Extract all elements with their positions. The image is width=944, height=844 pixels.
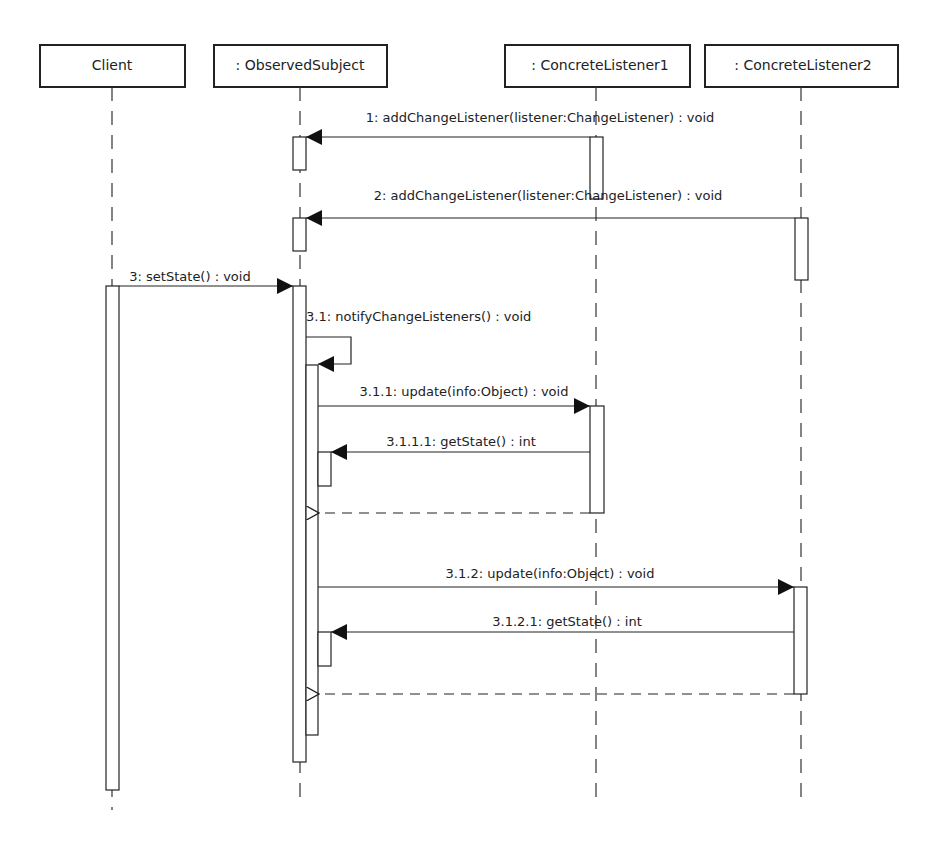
activation-subject-2 bbox=[293, 218, 306, 251]
participant-client: Client bbox=[40, 45, 185, 87]
message-1-label: 1: addChangeListener(listener:ChangeList… bbox=[366, 110, 715, 125]
message-3-1-2-label: 3.1.2: update(info:Object) : void bbox=[446, 566, 655, 581]
participant-concrete-listener-1: : ConcreteListener1 bbox=[505, 45, 690, 87]
message-3-label: 3: setState() : void bbox=[129, 269, 250, 284]
activation-listener2-1 bbox=[795, 218, 808, 280]
participant-label: : ConcreteListener1 bbox=[531, 57, 668, 73]
activation-subject-nested bbox=[306, 365, 318, 735]
activation-subject-1 bbox=[293, 137, 306, 170]
sequence-diagram: Client : ObservedSubject : ConcreteListe… bbox=[0, 0, 944, 844]
activation-subject-callback-2 bbox=[318, 632, 331, 666]
participant-label: : ObservedSubject bbox=[236, 57, 365, 73]
participant-label: Client bbox=[92, 57, 133, 73]
message-3-1-self-arrow bbox=[306, 337, 351, 364]
participant-observed-subject: : ObservedSubject bbox=[214, 45, 387, 87]
activation-listener1-2 bbox=[590, 406, 604, 513]
activation-subject-callback-1 bbox=[318, 452, 331, 486]
message-3-1-1-1-label: 3.1.1.1: getState() : int bbox=[386, 434, 536, 449]
participant-label: : ConcreteListener2 bbox=[734, 57, 871, 73]
message-3-1-1-label: 3.1.1: update(info:Object) : void bbox=[360, 384, 569, 399]
participant-concrete-listener-2: : ConcreteListener2 bbox=[705, 45, 898, 87]
message-3-1-label: 3.1: notifyChangeListeners() : void bbox=[306, 309, 531, 324]
message-3-1-2-1-label: 3.1.2.1: getState() : int bbox=[492, 614, 642, 629]
activation-listener2-2 bbox=[794, 587, 807, 694]
activation-client bbox=[106, 286, 119, 790]
activation-subject-main bbox=[293, 286, 306, 762]
message-2-label: 2: addChangeListener(listener:ChangeList… bbox=[374, 188, 723, 203]
